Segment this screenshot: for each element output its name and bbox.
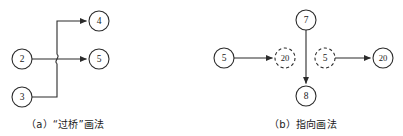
node-b-20-solid-label: 20 bbox=[379, 53, 388, 63]
node-a-5-label: 5 bbox=[97, 54, 102, 64]
node-b-5-solid[interactable]: 5 bbox=[214, 48, 234, 68]
panel-a-graph: 2 3 4 5 bbox=[12, 11, 109, 107]
figure-root: 2 3 4 5 bbox=[0, 0, 403, 136]
node-b-5-dashed-label: 5 bbox=[323, 53, 328, 63]
edge-3-to-4-upper-segment bbox=[57, 21, 87, 55]
node-b-5-solid-label: 5 bbox=[222, 53, 227, 63]
node-a-2-label: 2 bbox=[20, 54, 25, 64]
node-b-20-dashed[interactable]: 20 bbox=[275, 48, 295, 68]
node-b-7-label: 7 bbox=[304, 15, 309, 25]
node-a-3[interactable]: 3 bbox=[12, 87, 32, 107]
node-b-20-solid[interactable]: 20 bbox=[373, 48, 393, 68]
panel-b-graph: 5 20 5 20 7 bbox=[214, 10, 393, 106]
panel-a-caption: （a）“过桥”画法 bbox=[26, 116, 104, 131]
node-b-8-label: 8 bbox=[304, 91, 309, 101]
edge-3-to-4-lower-segment bbox=[32, 64, 57, 98]
node-b-20-dashed-label: 20 bbox=[281, 53, 290, 63]
node-a-4-label: 4 bbox=[97, 16, 102, 26]
node-a-4[interactable]: 4 bbox=[89, 11, 109, 31]
node-a-2[interactable]: 2 bbox=[12, 49, 32, 69]
node-a-5[interactable]: 5 bbox=[89, 49, 109, 69]
node-a-3-label: 3 bbox=[20, 92, 25, 102]
node-b-8[interactable]: 8 bbox=[296, 86, 316, 106]
panel-b-caption: （b）指向画法 bbox=[269, 116, 337, 131]
node-b-5-dashed[interactable]: 5 bbox=[315, 48, 335, 68]
node-b-7[interactable]: 7 bbox=[296, 10, 316, 30]
